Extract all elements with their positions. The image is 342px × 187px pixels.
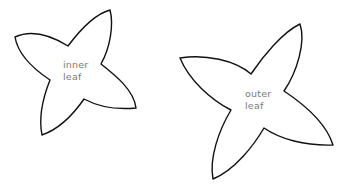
inner-leaf-label-line-2: leaf bbox=[63, 71, 88, 83]
inner-leaf-label-line-1: inner bbox=[63, 59, 88, 71]
outer-leaf-label: outer leaf bbox=[245, 88, 271, 112]
diagram-canvas bbox=[0, 0, 342, 187]
outer-leaf-label-line-2: leaf bbox=[245, 100, 271, 112]
outer-leaf-label-line-1: outer bbox=[245, 88, 271, 100]
inner-leaf-label: inner leaf bbox=[63, 59, 88, 83]
